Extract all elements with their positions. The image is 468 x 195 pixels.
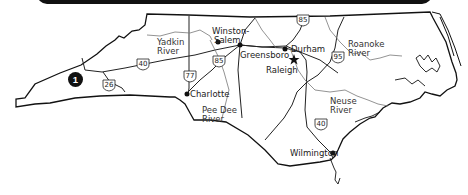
city-label-durham: Durham (291, 45, 325, 54)
river-label-line: River (157, 47, 184, 56)
road-southeast (265, 82, 307, 140)
highway-shield-i40-east: 40 (314, 118, 328, 131)
city-label-raleigh: Raleigh (266, 66, 298, 75)
highway-shield-i85-north: 85 (296, 14, 310, 27)
river-haw (255, 18, 276, 48)
highway-shield-i95: 95 (331, 51, 345, 64)
city-label-wilmington: Wilmington (290, 149, 338, 158)
river-label-yadkin: Yadkin River (157, 38, 184, 56)
city-label-charlotte: Charlotte (190, 90, 229, 99)
highway-shield-i77: 77 (183, 70, 197, 83)
city-label-line: Salem (212, 36, 249, 45)
city-dot-charlotte (185, 92, 190, 97)
highway-shield-i40-west: 40 (136, 58, 150, 71)
highway-number: 85 (299, 16, 308, 24)
highway-number: 85 (215, 57, 224, 65)
region-marker-1: 1 (68, 72, 83, 87)
highway-number: 40 (139, 60, 148, 68)
river-label-line: River (330, 106, 357, 115)
river-label-line: River (348, 49, 384, 58)
capital-star-icon (289, 54, 300, 64)
city-label-greensboro: Greensboro (240, 51, 289, 60)
river-label-line: River (202, 115, 237, 124)
highway-shield-i26: 26 (102, 79, 116, 92)
highway-number: 95 (334, 53, 343, 61)
river-label-neuse: Neuse River (330, 97, 357, 115)
river-label-roanoke: Roanoke River (348, 40, 384, 58)
highway-number: 40 (317, 120, 326, 128)
river-label-pee-dee: Pee Dee River (202, 106, 237, 124)
highway-number: 77 (186, 72, 195, 80)
highway-shield-i85-south: 85 (212, 55, 226, 68)
city-label-winston-salem: Winston- Salem (212, 27, 249, 45)
highway-number: 26 (105, 81, 114, 89)
